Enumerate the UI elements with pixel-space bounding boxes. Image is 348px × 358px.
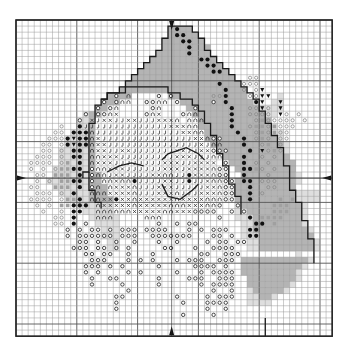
shade-fill-cell: [59, 160, 65, 166]
hat-fill-cell: [198, 75, 204, 81]
circle-stitch-icon: [175, 100, 178, 103]
filled-dot-stitch-icon: [181, 33, 185, 37]
hat-fill-cell: [271, 275, 277, 281]
shade-fill-cell: [83, 184, 89, 190]
hat-fill-cell: [253, 215, 259, 221]
hat-fill-cell: [174, 44, 180, 50]
hat-fill-cell: [259, 281, 265, 287]
hat-fill-cell: [156, 56, 162, 62]
hat-fill-cell: [235, 184, 241, 190]
triangle-stitch-icon: [260, 94, 264, 98]
hat-fill-cell: [259, 269, 265, 275]
circle-stitch-icon: [212, 228, 215, 231]
circle-stitch-icon: [90, 283, 93, 286]
light-circle-stitch-icon: [279, 125, 282, 128]
hat-fill-cell: [180, 63, 186, 69]
cross-stitch-icon: [200, 192, 203, 195]
hook-stitch-icon: [176, 185, 178, 189]
hat-fill-cell: [198, 117, 204, 123]
shade-fill-cell: [265, 300, 271, 306]
cross-stitch-icon: [139, 210, 142, 213]
arch-stitch-icon: [212, 204, 215, 207]
light-circle-stitch-icon: [60, 216, 63, 219]
hook-stitch-icon: [146, 161, 148, 165]
filled-dot-stitch-icon: [72, 191, 76, 195]
hook-stitch-icon: [158, 149, 160, 153]
hat-fill-cell: [235, 123, 241, 129]
hat-fill-cell: [192, 69, 198, 75]
grey-square-stitch-icon: [66, 161, 70, 165]
hat-fill-cell: [156, 81, 162, 87]
hat-fill-cell: [290, 190, 296, 196]
hat-fill-cell: [125, 87, 131, 93]
hat-fill-cell: [235, 99, 241, 105]
arch-stitch-icon: [127, 210, 130, 213]
circle-stitch-icon: [224, 167, 227, 170]
circle-stitch-icon: [163, 246, 166, 249]
arch-stitch-icon: [133, 186, 136, 189]
hook-stitch-icon: [164, 137, 166, 141]
cross-stitch-icon: [188, 210, 191, 213]
shade-fill-cell: [271, 99, 277, 105]
light-circle-stitch-icon: [285, 137, 288, 140]
cross-stitch-icon: [133, 210, 136, 213]
filled-dot-stitch-icon: [72, 179, 76, 183]
circle-stitch-icon: [78, 240, 81, 243]
circle-stitch-icon: [194, 246, 197, 249]
filled-dot-stitch-icon: [218, 82, 222, 86]
hat-fill-cell: [235, 142, 241, 148]
hat-fill-cell: [138, 69, 144, 75]
hat-fill-cell: [241, 111, 247, 117]
hat-fill-cell: [253, 275, 259, 281]
hat-fill-cell: [271, 239, 277, 245]
hat-fill-cell: [204, 136, 210, 142]
circle-stitch-icon: [157, 94, 160, 97]
filled-dot-stitch-icon: [248, 149, 252, 153]
arch-stitch-icon: [194, 119, 197, 122]
hat-fill-cell: [198, 69, 204, 75]
shade-fill-cell: [296, 275, 302, 281]
filled-dot-stitch-icon: [78, 197, 82, 201]
cross-stitch-icon: [170, 180, 173, 183]
arch-stitch-icon: [163, 174, 166, 177]
hat-fill-cell: [271, 184, 277, 190]
hook-stitch-icon: [97, 118, 99, 122]
hat-fill-cell: [204, 44, 210, 50]
light-circle-stitch-icon: [42, 210, 45, 213]
grey-square-stitch-icon: [72, 198, 76, 202]
hat-fill-cell: [192, 44, 198, 50]
hat-fill-cell: [162, 87, 168, 93]
circle-stitch-icon: [200, 210, 203, 213]
light-circle-stitch-icon: [255, 82, 258, 85]
hat-fill-cell: [235, 148, 241, 154]
hat-fill-cell: [138, 87, 144, 93]
hat-fill-cell: [198, 38, 204, 44]
grey-square-stitch-icon: [260, 216, 264, 220]
circle-stitch-icon: [102, 234, 105, 237]
circle-stitch-icon: [218, 228, 221, 231]
hat-fill-cell: [277, 148, 283, 154]
circle-stitch-icon: [182, 234, 185, 237]
hat-fill-cell: [296, 245, 302, 251]
hat-fill-cell: [284, 257, 290, 263]
hat-fill-cell: [259, 172, 265, 178]
hook-stitch-icon: [194, 155, 196, 159]
hook-stitch-icon: [133, 155, 135, 159]
filled-dot-stitch-icon: [181, 39, 185, 43]
circle-stitch-icon: [163, 234, 166, 237]
shade-fill-cell: [284, 148, 290, 154]
filled-dot-stitch-icon: [248, 185, 252, 189]
hat-fill-cell: [132, 81, 138, 87]
grey-square-stitch-icon: [285, 210, 289, 214]
circle-stitch-icon: [84, 265, 87, 268]
hat-fill-cell: [271, 160, 277, 166]
shade-fill-cell: [113, 233, 119, 239]
hat-fill-cell: [211, 93, 217, 99]
circle-stitch-icon: [66, 234, 69, 237]
hook-stitch-icon: [133, 143, 135, 147]
hat-fill-cell: [284, 178, 290, 184]
hat-fill-cell: [247, 142, 253, 148]
circle-stitch-icon: [157, 240, 160, 243]
cross-stitch-icon: [157, 198, 160, 201]
circle-stitch-icon: [151, 234, 154, 237]
